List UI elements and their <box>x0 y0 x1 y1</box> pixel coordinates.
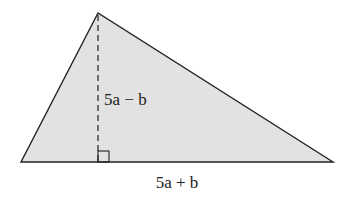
base-label: 5a + b <box>156 173 199 192</box>
triangle-shape <box>21 13 333 162</box>
height-label: 5a − b <box>104 90 147 109</box>
triangle-diagram: 5a − b 5a + b <box>0 0 353 197</box>
triangle-figure: 5a − b 5a + b <box>0 0 353 197</box>
